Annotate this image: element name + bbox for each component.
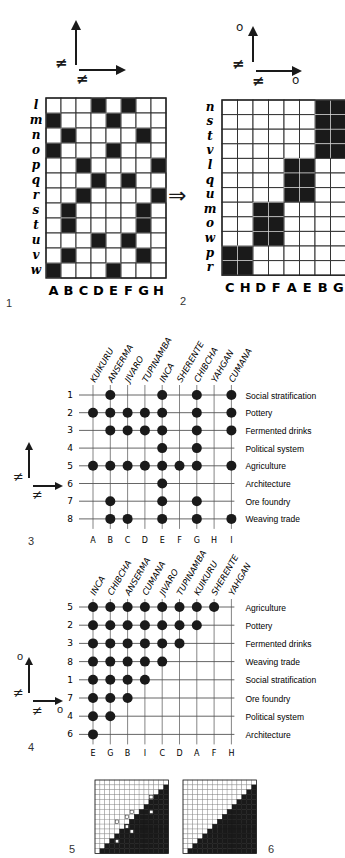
row-label: Ore foundry: [245, 694, 291, 704]
column-code: H: [228, 749, 234, 758]
row-label: Weaving trade: [245, 657, 300, 667]
dot: [192, 602, 202, 612]
dot: [105, 675, 115, 685]
dot: [140, 602, 150, 612]
figure-number: 4: [28, 741, 34, 753]
dot: [88, 729, 98, 739]
column-code: A: [194, 749, 200, 758]
triangular-matrix: [183, 780, 263, 858]
dot: [140, 675, 150, 685]
dot: [105, 638, 115, 648]
dot: [88, 602, 98, 612]
dot: [123, 657, 133, 667]
figure-4: INCAECHIBCHAGANSERMABCUMANAIJIVAROCTUPIN…: [0, 0, 345, 760]
dot: [105, 602, 115, 612]
dot: [175, 602, 185, 612]
figure-number: 6: [268, 843, 274, 855]
dot: [140, 638, 150, 648]
dot: [157, 602, 167, 612]
row-number: 2: [67, 620, 73, 630]
dot: [123, 602, 133, 612]
horizontal-end-label: o: [57, 703, 63, 715]
dot: [192, 620, 202, 630]
column-code: G: [107, 749, 113, 758]
dot: [88, 675, 98, 685]
row-label: Architecture: [245, 730, 291, 740]
dot: [105, 693, 115, 703]
column-code: B: [125, 749, 131, 758]
dot: [157, 620, 167, 630]
dot: [88, 657, 98, 667]
row-label: Political system: [245, 712, 304, 722]
dot: [175, 620, 185, 630]
figure-number: 5: [69, 843, 75, 855]
figure-5: 5: [0, 770, 172, 858]
dot: [175, 638, 185, 648]
figure-6: 6: [172, 770, 345, 858]
dot: [88, 711, 98, 721]
horizontal-sign: ≠: [32, 703, 43, 718]
column-name: INCA: [88, 574, 107, 597]
dot: [88, 693, 98, 703]
dot-matrix: INCAECHIBCHAGANSERMABCUMANAIJIVAROCTUPIN…: [0, 0, 345, 858]
dot: [123, 675, 133, 685]
column-code: D: [176, 749, 182, 758]
dot: [105, 657, 115, 667]
row-number: 5: [67, 602, 73, 612]
dot: [105, 620, 115, 630]
dot: [140, 620, 150, 630]
dot: [123, 620, 133, 630]
dot: [157, 657, 167, 667]
column-code: I: [144, 749, 146, 758]
vertical-sign: ≠: [13, 685, 24, 700]
row-number: 6: [67, 729, 73, 739]
dot: [157, 638, 167, 648]
dot: [123, 693, 133, 703]
dot: [123, 638, 133, 648]
dot: [105, 711, 115, 721]
row-label: Fermented drinks: [245, 639, 311, 649]
row-label: Social stratification: [245, 675, 316, 685]
row-label: Agriculture: [245, 603, 286, 613]
dot: [209, 602, 219, 612]
column-code: C: [159, 749, 165, 758]
dot: [88, 620, 98, 630]
column-code: F: [212, 749, 217, 758]
dot: [140, 657, 150, 667]
dot: [88, 638, 98, 648]
vertical-end-label: o: [17, 650, 23, 662]
triangular-matrix: [95, 780, 175, 858]
row-number: 3: [67, 638, 73, 648]
row-label: Pottery: [245, 621, 273, 631]
column-code: E: [90, 749, 95, 758]
